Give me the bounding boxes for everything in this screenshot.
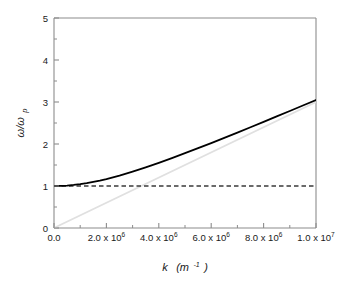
y-axis-tick-label-2: 2: [43, 139, 48, 150]
y-axis-tick-label-1: 1: [43, 181, 48, 192]
x-axis-tick-label-3: 6.0 x 106: [192, 231, 230, 243]
y-axis-title-numerator: ω/ω: [14, 117, 26, 138]
x-axis-tick-label-5: 1.0 x 107: [297, 231, 335, 243]
x-axis-title-unit-exponent: -1: [193, 261, 199, 268]
x-axis-tick-label-1: 2.0 x 106: [88, 231, 126, 243]
dispersion-relation-plot: 012345 0.02.0 x 1064.0 x 1066.0 x 1068.0…: [0, 0, 343, 284]
y-axis-tick-label-5: 5: [43, 13, 48, 24]
x-axis-title-symbol: k: [162, 261, 168, 273]
y-axis-tick-label-3: 3: [43, 97, 48, 108]
x-axis-title-unit-open: (m: [176, 261, 189, 273]
x-axis-tick-label-4: 8.0 x 106: [245, 231, 283, 243]
y-axis-title-subscript: p: [20, 109, 29, 114]
chart-figure: 012345 0.02.0 x 1064.0 x 1066.0 x 1068.0…: [0, 0, 343, 284]
y-axis-tick-label-4: 4: [43, 55, 48, 66]
x-axis-tick-label-0: 0.0: [47, 232, 60, 243]
x-axis-tick-label-2: 4.0 x 106: [140, 231, 178, 243]
